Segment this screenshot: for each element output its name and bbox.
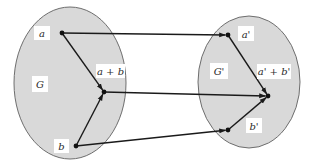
label-a-prime-text: a' bbox=[242, 29, 251, 40]
point-apb bbox=[102, 90, 107, 95]
label-a-prime: a' bbox=[238, 26, 254, 41]
label-b-prime: b' bbox=[246, 118, 262, 133]
label-a-plus-b: a + b bbox=[96, 64, 125, 78]
label-a-plus-b-text: a + b bbox=[97, 66, 124, 77]
label-b: b bbox=[54, 139, 69, 153]
label-G-prime-text: G' bbox=[214, 66, 225, 77]
label-G: G bbox=[32, 76, 48, 92]
label-a: a bbox=[34, 26, 50, 40]
label-a-prime-plus-b-prime-text: a' + b' bbox=[258, 66, 291, 77]
label-G-prime: G' bbox=[210, 63, 228, 79]
set-G-ellipse bbox=[14, 7, 126, 159]
point-bp bbox=[226, 128, 231, 133]
point-apbp bbox=[266, 94, 271, 99]
label-G-text: G bbox=[36, 79, 44, 90]
point-b bbox=[74, 144, 79, 149]
point-a bbox=[60, 31, 65, 36]
label-b-text: b bbox=[58, 141, 64, 152]
label-b-prime-text: b' bbox=[249, 121, 258, 132]
label-a-prime-plus-b-prime: a' + b' bbox=[257, 64, 291, 79]
point-ap bbox=[226, 33, 231, 38]
label-a-text: a bbox=[39, 28, 45, 39]
homomorphism-diagram: a a + b b G a' a' + b' b' G' bbox=[0, 0, 311, 167]
